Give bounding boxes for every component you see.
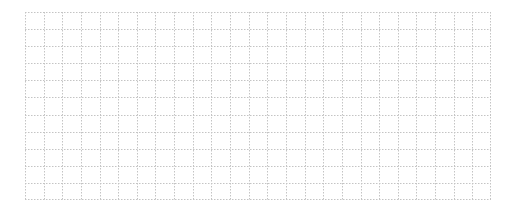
- empty-grid: [25, 12, 491, 200]
- grid-lines: [25, 12, 491, 200]
